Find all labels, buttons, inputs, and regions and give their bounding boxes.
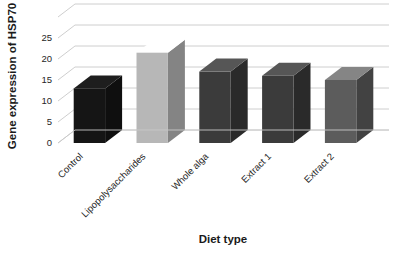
y-tick-label: 25 bbox=[41, 32, 52, 43]
bars-group bbox=[74, 40, 374, 143]
x-category-label: Extract 1 bbox=[239, 151, 273, 185]
x-category-label: Whole alga bbox=[169, 150, 211, 192]
bar-front-face bbox=[137, 53, 168, 143]
y-tick-label: 10 bbox=[41, 95, 52, 106]
bar-side-face bbox=[356, 67, 373, 143]
chart-canvas: 0510152025ControlLipopolysaccharidesWhol… bbox=[0, 0, 403, 260]
bar-front-face bbox=[74, 88, 105, 143]
x-category-label: Lipopolysaccharides bbox=[79, 150, 148, 219]
bar-front-face bbox=[262, 76, 293, 143]
bar-side-face bbox=[294, 63, 311, 143]
y-tick-label: 5 bbox=[47, 116, 52, 127]
gridline bbox=[58, 46, 389, 59]
bar-side-face bbox=[168, 40, 185, 143]
x-axis-category-labels: ControlLipopolysaccharidesWhole algaExtr… bbox=[55, 150, 336, 219]
bar[interactable] bbox=[74, 75, 122, 143]
y-tick-label: 0 bbox=[47, 137, 52, 148]
bar-chart: 0510152025ControlLipopolysaccharidesWhol… bbox=[0, 0, 403, 260]
gridline bbox=[58, 25, 389, 38]
bar[interactable] bbox=[137, 40, 185, 143]
y-axis-tick-labels: 0510152025 bbox=[41, 32, 52, 148]
y-axis-title: Gene expression of HSP70 bbox=[6, 3, 18, 149]
bar[interactable] bbox=[325, 67, 373, 143]
y-tick-label: 20 bbox=[41, 53, 52, 64]
y-tick-label: 15 bbox=[41, 74, 52, 85]
gridline bbox=[58, 4, 389, 17]
bar[interactable] bbox=[262, 63, 310, 143]
x-axis-title: Diet type bbox=[199, 233, 248, 245]
x-category-label: Control bbox=[55, 151, 84, 180]
bar-front-face bbox=[199, 72, 230, 143]
x-category-label: Extract 2 bbox=[302, 151, 336, 185]
bar-front-face bbox=[325, 80, 356, 143]
